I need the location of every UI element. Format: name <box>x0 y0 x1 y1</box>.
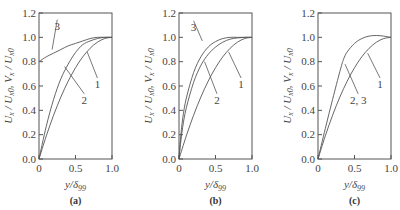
x-axis-label: y/δ99 <box>204 178 226 193</box>
y-tick-label: 0.8 <box>301 55 315 67</box>
curve-label: 2, 3 <box>350 94 367 106</box>
panel-c: 0.00.20.40.60.81.01.200.51.02, 31y/δ99Ux… <box>281 7 398 208</box>
y-tick-label: 0.0 <box>301 153 315 165</box>
x-tick-label: 0 <box>176 162 182 174</box>
leader-line <box>87 52 97 78</box>
y-tick-label: 1.0 <box>162 31 176 43</box>
y-tick-label: 0.4 <box>22 104 36 116</box>
y-tick-label: 0.0 <box>162 153 176 165</box>
panel-label: (a) <box>70 195 82 207</box>
x-tick-label: 0.5 <box>69 162 83 174</box>
y-axis-label: Ux / Ux0, Vx / Ux0 <box>2 48 16 123</box>
x-tick-label: 0 <box>36 162 42 174</box>
leader-line <box>205 62 217 94</box>
leader-line <box>368 53 380 78</box>
x-tick-label: 0.5 <box>209 162 223 174</box>
curve-label: 2 <box>214 94 220 106</box>
y-tick-label: 0.8 <box>162 55 176 67</box>
y-tick-label: 0.0 <box>22 153 36 165</box>
x-tick-label: 0 <box>315 162 321 174</box>
y-tick-label: 1.0 <box>22 31 36 43</box>
curve-2 <box>39 37 112 159</box>
x-tick-label: 1.0 <box>105 162 119 174</box>
x-axis-label: y/δ99 <box>343 178 365 193</box>
y-tick-label: 0.8 <box>22 55 36 67</box>
y-tick-label: 0.6 <box>22 80 36 92</box>
curve-3 <box>39 37 112 61</box>
x-tick-label: 1.0 <box>245 162 259 174</box>
y-tick-label: 0.4 <box>301 104 315 116</box>
y-axis-label: Ux / Ux0, Vx / Ux0 <box>281 48 295 123</box>
panel-label: (c) <box>349 195 360 207</box>
curve-label: 3 <box>191 21 197 33</box>
x-tick-label: 1.0 <box>384 162 398 174</box>
panel-a: 0.00.20.40.60.81.01.200.51.0321y/δ99Ux /… <box>2 7 119 208</box>
curve-label: 1 <box>238 78 244 90</box>
y-tick-label: 1.2 <box>22 7 36 19</box>
leader-line <box>65 67 85 94</box>
y-tick-label: 1.0 <box>301 31 315 43</box>
y-tick-label: 1.2 <box>301 7 315 19</box>
y-axis-label: Ux / Ux0, Vx / Ux0 <box>142 48 156 123</box>
curve-label: 3 <box>55 20 61 32</box>
leader-line <box>229 52 241 78</box>
figure: 0.00.20.40.60.81.01.200.51.0321y/δ99Ux /… <box>0 0 400 210</box>
plot-frame <box>39 13 112 159</box>
x-axis-label: y/δ99 <box>64 178 86 193</box>
y-tick-label: 0.4 <box>162 104 176 116</box>
curve-label: 1 <box>377 78 383 90</box>
y-tick-label: 0.6 <box>301 80 315 92</box>
curve-1 <box>39 37 112 159</box>
x-tick-label: 0.5 <box>348 162 362 174</box>
y-tick-label: 0.2 <box>22 128 36 140</box>
panel-b: 0.00.20.40.60.81.01.200.51.0321y/δ99Ux /… <box>142 7 259 208</box>
leader-line <box>345 64 358 94</box>
y-tick-label: 0.6 <box>162 80 176 92</box>
y-tick-label: 0.2 <box>301 128 315 140</box>
curve-label: 1 <box>95 78 101 90</box>
y-tick-label: 1.2 <box>162 7 176 19</box>
y-tick-label: 0.2 <box>162 128 176 140</box>
curve-label: 2 <box>82 94 88 106</box>
panel-label: (b) <box>209 195 221 207</box>
